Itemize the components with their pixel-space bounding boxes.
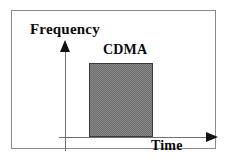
cdma-diagram-canvas: Frequency CDMA Time <box>0 0 227 161</box>
x-axis-label: Time <box>151 138 183 154</box>
y-axis-line <box>65 47 66 151</box>
x-axis-arrow-icon <box>206 132 218 142</box>
cdma-block-label: CDMA <box>103 42 147 58</box>
cdma-signal-block <box>89 63 153 137</box>
y-axis-label: Frequency <box>30 21 100 38</box>
figure-border: Frequency CDMA Time <box>11 10 216 149</box>
y-axis-arrow-icon <box>60 40 70 52</box>
x-axis-line <box>59 137 211 138</box>
